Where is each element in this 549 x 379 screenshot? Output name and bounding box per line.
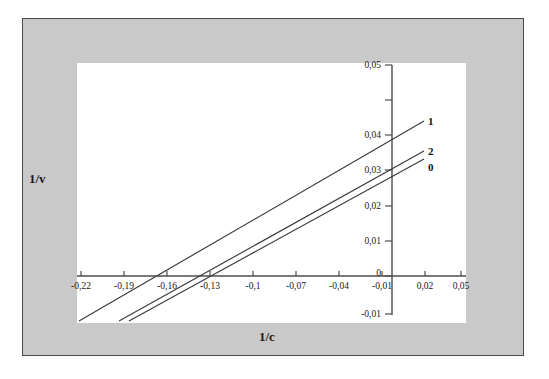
- y-tick-label: 0,01: [353, 236, 381, 246]
- x-tick-label: -0,22: [71, 281, 91, 291]
- x-axis-title: 1/c: [259, 329, 275, 345]
- x-tick-label: -0,16: [157, 281, 177, 291]
- chart-svg: [23, 19, 525, 357]
- y-tick-label: 0,02: [353, 201, 381, 211]
- x-tick-label: -0,04: [329, 281, 349, 291]
- figure-frame: 1/v 1/c -0,22 -0,19 -0,16 -0,13 -0,1 -0,…: [22, 18, 524, 356]
- x-tick-label: 0,02: [417, 281, 434, 291]
- x-tick-label: 0,05: [453, 281, 470, 291]
- series-line-1: [79, 121, 424, 321]
- y-axis-title: 1/v: [29, 171, 46, 187]
- x-tick-marks: [81, 271, 461, 276]
- x-tick-label: -0,1: [245, 281, 260, 291]
- x-tick-label: -0,01: [372, 281, 392, 291]
- y-tick-label: 0,03: [353, 165, 381, 175]
- x-tick-label: -0,07: [286, 281, 306, 291]
- series-label-1: 1: [428, 115, 434, 127]
- y-tick-label: 0,04: [353, 130, 381, 140]
- series-label-2: 2: [428, 145, 434, 157]
- y-tick-label-zero: 0: [353, 268, 381, 278]
- x-tick-label: -0,19: [114, 281, 134, 291]
- x-tick-label: -0,13: [200, 281, 220, 291]
- y-tick-label: -0,01: [353, 309, 381, 319]
- y-tick-label: 0,05: [353, 60, 381, 70]
- series-label-0: 0: [428, 161, 434, 173]
